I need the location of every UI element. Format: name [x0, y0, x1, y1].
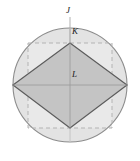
vertex-label-j: J — [66, 6, 70, 15]
vertex-label-k: K — [72, 27, 78, 36]
geometry-figure: J K L — [0, 0, 140, 161]
vertex-label-l: L — [72, 70, 77, 79]
geometry-diagram — [0, 0, 140, 161]
